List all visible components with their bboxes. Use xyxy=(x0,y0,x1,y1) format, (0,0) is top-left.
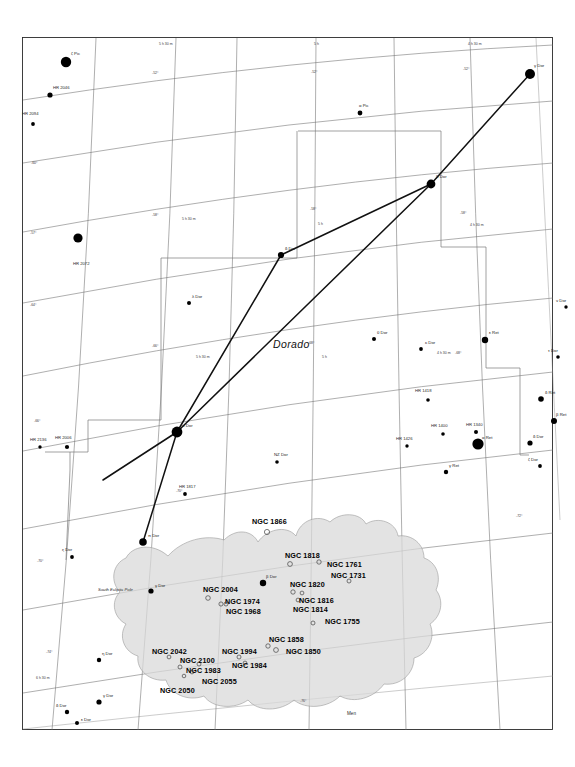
star-marker xyxy=(172,427,183,438)
star-marker xyxy=(482,337,488,343)
star-marker xyxy=(372,337,376,341)
star-marker xyxy=(73,233,82,242)
star-marker xyxy=(148,588,153,593)
star-marker xyxy=(183,492,187,496)
constellation-boundary xyxy=(45,131,529,560)
star-marker xyxy=(444,470,448,474)
star-marker xyxy=(65,710,69,714)
star-marker xyxy=(556,355,560,359)
sky-canvas xyxy=(0,0,575,767)
star-marker xyxy=(358,111,363,116)
star-marker xyxy=(426,398,430,402)
large-magellanic-cloud xyxy=(114,515,441,709)
star-marker xyxy=(31,122,35,126)
star-marker xyxy=(275,460,279,464)
star-marker xyxy=(139,538,147,546)
star-marker xyxy=(65,445,69,449)
star-marker xyxy=(551,418,557,424)
star-marker xyxy=(538,464,542,468)
star-marker xyxy=(405,444,408,447)
star-marker xyxy=(96,699,101,704)
star-marker xyxy=(525,69,535,79)
star-marker xyxy=(260,580,266,586)
star-marker xyxy=(97,658,101,662)
star-marker xyxy=(419,347,423,351)
star-marker xyxy=(474,430,478,434)
star-marker xyxy=(278,252,284,258)
star-chart: Dorado South Ecliptic Pole NGC 1866NGC 1… xyxy=(0,0,575,767)
star-marker xyxy=(47,92,52,97)
star-marker xyxy=(61,57,71,67)
star-marker xyxy=(38,445,41,448)
star-marker xyxy=(527,440,532,445)
star-marker xyxy=(564,305,567,308)
star-marker xyxy=(472,438,483,449)
star-marker xyxy=(70,555,74,559)
star-marker xyxy=(75,721,79,725)
star-marker xyxy=(427,180,436,189)
star-marker xyxy=(441,432,445,436)
constellation-stick-figure xyxy=(103,74,530,542)
star-marker xyxy=(187,301,191,305)
star-marker xyxy=(538,396,544,402)
